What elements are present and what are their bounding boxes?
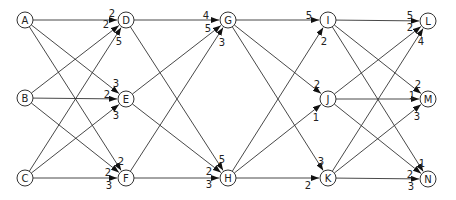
edge-weight-I-L: 5 [407, 10, 413, 21]
node-H: H [220, 170, 236, 186]
weight-labels-layer: 225323223453523522132524213123 [103, 8, 425, 192]
edge-weight-C-E: 3 [113, 110, 119, 121]
edge-weight-J-M: 1 [409, 90, 415, 101]
edge-weight-H-K: 2 [305, 180, 311, 191]
node-I: I [320, 12, 336, 28]
node-label: K [325, 173, 332, 184]
edge-weight-G-J: 2 [314, 79, 320, 90]
node-K: K [320, 170, 336, 186]
edge-weight-K-M: 3 [414, 111, 420, 122]
edge-H-I [232, 28, 323, 172]
node-label: H [224, 173, 232, 184]
edge-weight-F-G: 3 [219, 37, 225, 48]
node-label: M [424, 94, 433, 105]
edge-weight-I-N: 1 [419, 158, 425, 169]
edge-weight-F-H: 3 [206, 179, 212, 190]
edge-weight-E-H: 2 [206, 166, 212, 177]
edge-weight-H-J: 1 [313, 112, 319, 123]
node-B: B [17, 90, 33, 106]
edge-weight-G-I: 5 [306, 10, 312, 21]
edge-E-H [132, 104, 221, 173]
edge-weight-G-K: 3 [318, 156, 324, 167]
edge-weight-C-F: 3 [106, 180, 112, 191]
edge-B-F [31, 103, 119, 172]
edge-F-G [130, 28, 223, 172]
edge-weight-E-G: 5 [205, 23, 211, 34]
node-label: F [123, 173, 129, 184]
network-diagram: 225323223453523522132524213123 ABCDEFGHI… [0, 0, 456, 200]
node-J: J [320, 91, 336, 107]
edge-J-L [334, 27, 421, 95]
edge-weight-C-D: 5 [116, 36, 122, 47]
edge-weight-J-N: 2 [407, 169, 413, 180]
node-M: M [420, 91, 436, 107]
edge-weight-A-D: 2 [109, 8, 115, 19]
edge-weight-A-F: 2 [118, 156, 124, 167]
edge-G-J [234, 25, 321, 93]
node-label: B [22, 93, 29, 104]
edge-weight-K-L: 4 [418, 36, 424, 47]
node-G: G [220, 12, 236, 28]
node-label: D [122, 15, 130, 26]
edge-weight-K-N: 3 [408, 181, 414, 192]
node-label: E [123, 94, 129, 105]
node-F: F [118, 170, 134, 186]
node-label: N [424, 174, 431, 185]
node-N: N [420, 171, 436, 187]
node-E: E [118, 91, 134, 107]
edge-D-H [130, 27, 223, 171]
node-D: D [118, 12, 134, 28]
node-label: I [327, 15, 330, 26]
edge-weight-D-H: 5 [219, 154, 225, 165]
edge-weight-J-L: 2 [407, 22, 413, 33]
edge-weight-B-D: 2 [103, 19, 109, 30]
nodes-layer: ABCDEFGHIJKLMN [17, 12, 436, 187]
node-A: A [17, 12, 33, 28]
edge-G-K [232, 27, 323, 171]
node-C: C [17, 170, 33, 186]
edge-H-J [234, 105, 321, 173]
node-label: A [22, 15, 29, 26]
edge-weight-D-G: 4 [203, 10, 209, 21]
edge-E-G [132, 26, 221, 95]
edges-layer [29, 20, 423, 179]
node-label: L [425, 16, 431, 27]
node-label: J [326, 94, 330, 105]
node-label: C [22, 173, 29, 184]
edge-C-E [31, 105, 119, 174]
edge-weight-B-E: 2 [104, 89, 110, 100]
edge-weight-B-F: 2 [105, 167, 111, 178]
node-label: G [224, 15, 232, 26]
edge-weight-I-M: 2 [415, 79, 421, 90]
node-L: L [420, 13, 436, 29]
edge-weight-H-I: 2 [321, 36, 327, 47]
edge-weight-A-E: 3 [113, 78, 119, 89]
edge-I-M [334, 25, 421, 93]
